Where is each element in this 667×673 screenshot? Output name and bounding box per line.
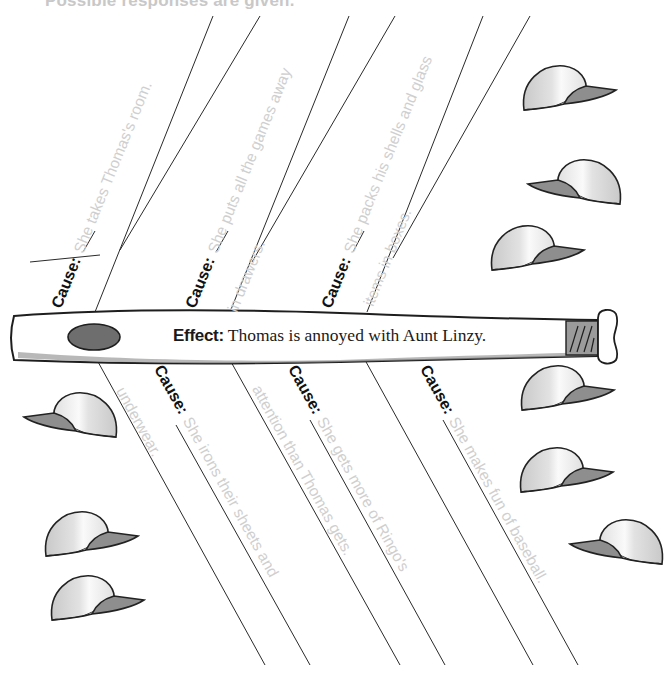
caps-right-top <box>492 66 621 270</box>
bat-label-oval <box>68 324 120 350</box>
effect-label: Effect: <box>173 326 224 345</box>
fishbone-diagram: Possible responses are given. <box>0 0 667 673</box>
effect-text: Thomas is annoyed with Aunt Linzy. <box>228 325 486 345</box>
effect-statement: Effect:Thomas is annoyed with Aunt Linzy… <box>173 322 486 348</box>
caps-right-bottom <box>521 366 663 564</box>
caps-left-bottom <box>24 393 144 620</box>
